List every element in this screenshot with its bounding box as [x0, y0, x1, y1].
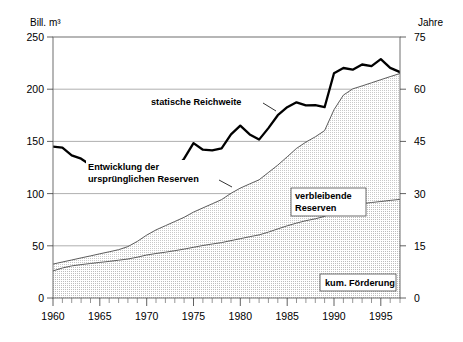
x-tick-label-1970: 1970 — [135, 310, 159, 322]
annotation-verbleibende-reserven: verbleibende Reserven — [291, 188, 366, 216]
x-tick-label-1960: 1960 — [41, 310, 65, 322]
annotation-statische-reichweite-label: statische Reichweite — [151, 97, 241, 107]
y-tick-label-right-30: 30 — [414, 188, 426, 200]
annotation-entwicklung-reserven: Entwicklung der ursprünglichen Reserven — [86, 160, 232, 187]
x-tick-label-1995: 1995 — [369, 310, 393, 322]
y-axis-right-title: Jahre — [418, 17, 443, 28]
y-tick-label-right-60: 60 — [414, 83, 426, 95]
y-axis-left-title: Bill. m³ — [30, 17, 61, 28]
x-tick-label-1965: 1965 — [88, 310, 112, 322]
y-tick-label-right-75: 75 — [414, 31, 426, 43]
y-tick-label-left-150: 150 — [26, 135, 44, 147]
static-range-reserves-chart: Bill. m³ Jahre — [0, 0, 463, 342]
chart-container: Bill. m³ Jahre — [0, 0, 463, 342]
x-tick-label-1985: 1985 — [276, 310, 300, 322]
y-tick-label-left-200: 200 — [26, 83, 44, 95]
y-tick-label-left-50: 50 — [32, 240, 44, 252]
y-tick-label-left-100: 100 — [26, 188, 44, 200]
annotation-entwicklung-reserven-line1: Entwicklung der — [88, 162, 159, 172]
y-tick-label-left-250: 250 — [26, 31, 44, 43]
annotation-kum-foerderung-label: kum. Förderung — [325, 278, 395, 288]
annotation-verbleibende-reserven-line2: Reserven — [295, 203, 337, 213]
x-tick-label-1980: 1980 — [229, 310, 253, 322]
y-tick-label-right-15: 15 — [414, 240, 426, 252]
annotation-kum-foerderung: kum. Förderung — [320, 274, 396, 291]
x-tick-label-1990: 1990 — [322, 310, 346, 322]
y-tick-label-left-0: 0 — [38, 292, 44, 304]
x-tick-label-1975: 1975 — [182, 310, 206, 322]
y-tick-label-right-0: 0 — [414, 292, 420, 304]
y-tick-label-right-45: 45 — [414, 135, 426, 147]
annotation-verbleibende-reserven-line1: verbleibende — [295, 191, 352, 201]
annotation-entwicklung-reserven-line2: ursprünglichen Reserven — [88, 174, 199, 184]
